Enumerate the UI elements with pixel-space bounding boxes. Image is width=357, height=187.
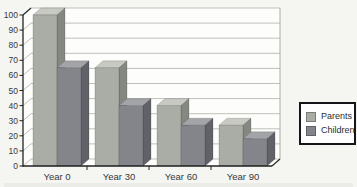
chart-container: 1009080706050403020100Year 0Year 30Year …	[0, 0, 357, 187]
y-tick-label-30: 30	[9, 116, 19, 126]
y-tick-label-100: 100	[4, 10, 18, 20]
bar-children-year-60	[181, 118, 213, 166]
legend-label-parents: Parents	[321, 112, 352, 121]
y-tick-label-60: 60	[9, 70, 19, 80]
bar-children-year-30	[119, 99, 151, 166]
x-axis: Year 0Year 30Year 60Year 90	[43, 166, 259, 182]
y-tick-label-0: 0	[13, 161, 18, 171]
legend-item-children: Children	[306, 126, 354, 136]
legend: Parents Children	[299, 102, 356, 145]
y-tick-label-10: 10	[9, 146, 19, 156]
legend-swatch-children-icon	[306, 126, 316, 136]
y-tick-label-40: 40	[9, 101, 19, 111]
bar-chart-3d: 1009080706050403020100Year 0Year 30Year …	[0, 0, 357, 187]
x-category-label-year-90: Year 90	[227, 171, 259, 182]
legend-item-parents: Parents	[306, 112, 354, 122]
legend-swatch-parents-icon	[306, 112, 316, 122]
page-edge-artifact	[4, 183, 353, 187]
x-category-label-year-0: Year 0	[43, 171, 70, 182]
bar-children-year-0	[57, 61, 89, 166]
y-tick-label-20: 20	[9, 131, 19, 141]
y-axis: 1009080706050403020100	[4, 10, 23, 171]
legend-label-children: Children	[321, 126, 355, 135]
x-category-label-year-30: Year 30	[103, 171, 135, 182]
y-tick-label-80: 80	[9, 40, 19, 50]
y-tick-label-50: 50	[9, 86, 19, 96]
y-tick-label-70: 70	[9, 55, 19, 65]
bar-children-year-90	[243, 132, 275, 166]
x-category-label-year-60: Year 60	[165, 171, 197, 182]
y-tick-label-90: 90	[9, 25, 19, 35]
